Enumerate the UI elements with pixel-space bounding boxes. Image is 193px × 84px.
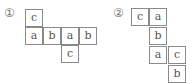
- net-2-face-c-1: c: [131, 8, 149, 26]
- net-1-face-a-1: a: [25, 27, 43, 45]
- diagram-1-label: ①: [4, 7, 15, 19]
- net-1-face-b-2: b: [79, 27, 97, 45]
- diagram-2-label: ②: [113, 7, 124, 19]
- net-2-face-c-2: c: [168, 46, 186, 64]
- net-1-face-c-top: c: [25, 9, 43, 27]
- net-2-face-a-2: a: [149, 46, 167, 64]
- net-1-face-c-bottom: c: [61, 45, 79, 63]
- net-1-face-b-1: b: [43, 27, 61, 45]
- net-2-face-a-1: a: [149, 8, 167, 26]
- net-2-face-b-2: b: [168, 65, 186, 83]
- net-2-face-b-1: b: [149, 27, 167, 45]
- net-1-face-a-2: a: [61, 27, 79, 45]
